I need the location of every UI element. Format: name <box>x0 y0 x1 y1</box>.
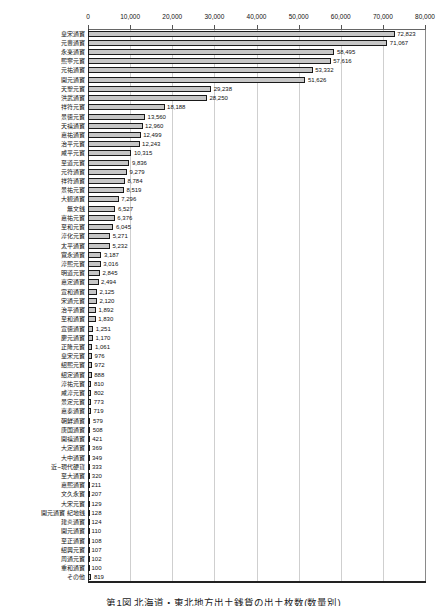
category-label: 開禧通寶 <box>0 436 85 443</box>
value-label: 10,315 <box>134 150 152 157</box>
bar <box>88 233 110 239</box>
bar <box>88 40 387 46</box>
bar-row: 近~現代硬貨333 <box>0 462 447 471</box>
bar <box>88 344 92 350</box>
bar-row: 朝鮮通寶579 <box>0 416 447 425</box>
bar <box>88 114 145 120</box>
bar-row: 嘉熙通寶211 <box>0 481 447 490</box>
bar-row: 元祐通寶53,332 <box>0 66 447 75</box>
bar-row: 嘉泰通寶719 <box>0 407 447 416</box>
category-label: 至大通寶 <box>0 472 85 479</box>
axis-tick-label: 0 <box>86 13 90 21</box>
category-label: 咸淳元寶 <box>0 390 85 397</box>
value-label: 58,495 <box>337 49 355 56</box>
category-label: 治平元寶 <box>0 141 85 148</box>
category-label: 開元通寶 <box>0 528 85 535</box>
bar-row: その他819 <box>0 573 447 582</box>
category-label: 明道元寶 <box>0 270 85 277</box>
bar <box>88 132 141 138</box>
value-label: 349 <box>92 454 102 461</box>
bar <box>88 556 90 562</box>
category-label: 唐国通寶 <box>0 426 85 433</box>
value-label: 9,836 <box>132 159 147 166</box>
bar <box>88 141 140 147</box>
bar <box>88 501 90 507</box>
value-label: 12,499 <box>143 131 161 138</box>
bar <box>88 160 129 166</box>
bar-row: 宣和通寶2,125 <box>0 287 447 296</box>
category-label: 近~現代硬貨 <box>0 463 85 470</box>
category-label: 宣徳通寶 <box>0 325 85 332</box>
value-label: 810 <box>94 380 104 387</box>
category-label: 淳熙元寶 <box>0 261 85 268</box>
bar-row: 祥符元寶18,188 <box>0 103 447 112</box>
value-label: 29,238 <box>214 85 232 92</box>
value-label: 972 <box>95 362 105 369</box>
value-label: 6,376 <box>117 214 132 221</box>
axis-tick-label: 80,000 <box>415 13 435 21</box>
value-label: 71,067 <box>390 39 408 46</box>
value-label: 773 <box>94 399 104 406</box>
value-label: 108 <box>92 537 102 544</box>
bar-row: 重和通寶100 <box>0 564 447 573</box>
bar-row: 洪武通寶28,250 <box>0 94 447 103</box>
category-label: 寛永通寶 <box>0 251 85 258</box>
bar <box>88 206 115 212</box>
bar-row: 開元通寶110 <box>0 527 447 536</box>
bar-row: 宣徳通寶1,251 <box>0 324 447 333</box>
value-label: 211 <box>92 482 102 489</box>
bar-row: 治平通寶1,892 <box>0 306 447 315</box>
bar-row: 文久永寶207 <box>0 490 447 499</box>
bar <box>88 565 90 571</box>
bar <box>88 196 119 202</box>
category-label: 嘉祐通寶 <box>0 131 85 138</box>
value-label: 207 <box>92 491 102 498</box>
bar <box>88 381 91 387</box>
bar-row: 祥符通寶8,784 <box>0 176 447 185</box>
bar-row: 元符通寶9,279 <box>0 167 447 176</box>
bar-row: 天禧通寶12,960 <box>0 121 447 130</box>
value-label: 8,519 <box>126 187 141 194</box>
bar <box>88 326 93 332</box>
bar <box>88 224 113 230</box>
value-label: 1,061 <box>95 343 110 350</box>
category-label: 嘉熙通寶 <box>0 482 85 489</box>
bar-row: 開禧通寶421 <box>0 435 447 444</box>
axis-tick-label: 10,000 <box>120 13 140 21</box>
bar <box>88 436 90 442</box>
category-label: 建炎通寶 <box>0 519 85 526</box>
value-label: 51,626 <box>308 76 326 83</box>
bar <box>88 510 90 516</box>
bar-row: 唐国通寶508 <box>0 425 447 434</box>
value-label: 2,494 <box>101 279 116 286</box>
bar <box>88 86 211 92</box>
bar <box>88 67 313 73</box>
category-label: 朝鮮通寶 <box>0 417 85 424</box>
category-label: 永楽通寶 <box>0 49 85 56</box>
value-label: 5,271 <box>113 233 128 240</box>
category-label: 淳化元寶 <box>0 233 85 240</box>
bar <box>88 528 90 534</box>
bar <box>88 491 90 497</box>
bar-row: 元豊通寶71,067 <box>0 38 447 47</box>
value-label: 320 <box>92 472 102 479</box>
bar-row: 永楽通寶58,495 <box>0 47 447 56</box>
bar <box>88 150 131 156</box>
bar-row: 至和通寶1,830 <box>0 315 447 324</box>
category-label: 大中通寶 <box>0 454 85 461</box>
bar-row: 大定通寶369 <box>0 444 447 453</box>
category-label: 紹熙元寶 <box>0 362 85 369</box>
bar-row: 熙寧元寶57,616 <box>0 57 447 66</box>
bar-row: 天聖元寶29,238 <box>0 84 447 93</box>
bar <box>88 353 92 359</box>
bar <box>88 307 96 313</box>
value-label: 369 <box>92 445 102 452</box>
value-label: 2,845 <box>102 270 117 277</box>
bar-row: 明道元寶2,845 <box>0 269 447 278</box>
bar <box>88 316 96 322</box>
category-label: 至正通寶 <box>0 537 85 544</box>
bar <box>88 169 127 175</box>
value-label: 719 <box>94 408 104 415</box>
value-label: 57,616 <box>333 58 351 65</box>
category-label: 無文銭 <box>0 205 85 212</box>
